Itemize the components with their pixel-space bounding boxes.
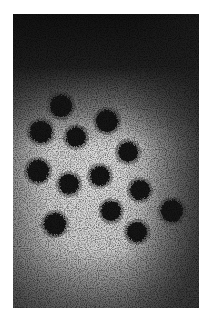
grain-overlay [13,14,199,308]
micrograph-canvas [13,14,199,308]
micrograph-image [13,14,199,308]
